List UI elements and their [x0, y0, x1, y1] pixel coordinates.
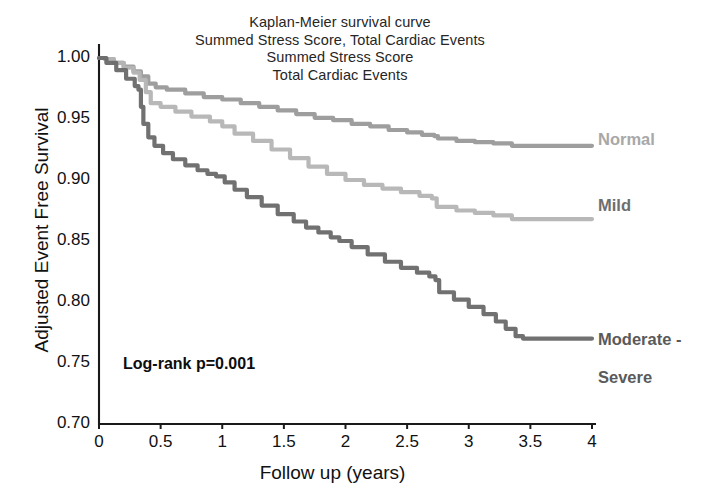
series-label-moderate-severe-line1: Moderate - [598, 330, 681, 348]
chart-title-line-2: Summed Stress Score, Total Cardiac Event… [175, 32, 505, 50]
y-axis-title: Adjusted Event Free Survival [31, 20, 53, 440]
series-label-moderate-severe-line2: Severe [598, 368, 652, 386]
survival-curve-moderate-severe [99, 58, 592, 339]
x-tick-label-5: 2.5 [395, 432, 419, 452]
x-tick-label-8: 4 [587, 432, 596, 452]
logrank-annotation: Log-rank p=0.001 [123, 355, 255, 373]
x-axis-title-text: Follow up (years) [260, 462, 406, 483]
x-tick-label-3: 1.5 [272, 432, 296, 452]
x-axis-title: Follow up (years) [0, 462, 709, 484]
x-tick-label-2: 1 [218, 432, 227, 452]
x-tick-label-6: 3 [464, 432, 473, 452]
chart-title-line-3: Summed Stress Score [175, 49, 505, 67]
x-tick-label-4: 2 [341, 432, 350, 452]
chart-title: Kaplan-Meier survival curve Summed Stres… [175, 14, 505, 84]
chart-title-line-1: Kaplan-Meier survival curve [175, 14, 505, 32]
x-tick-label-7: 3.5 [519, 432, 543, 452]
chart-title-line-4: Total Cardiac Events [175, 67, 505, 85]
kaplan-meier-figure: Kaplan-Meier survival curve Summed Stres… [0, 0, 709, 495]
series-label-moderate-severe: Moderate - Severe [598, 311, 681, 387]
series-label-normal: Normal [598, 130, 655, 149]
x-tick-label-0: 0 [94, 432, 103, 452]
x-tick-label-1: 0.5 [149, 432, 173, 452]
series-label-mild: Mild [598, 196, 631, 215]
